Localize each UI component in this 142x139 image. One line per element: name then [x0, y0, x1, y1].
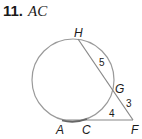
- label-a: A: [55, 123, 64, 137]
- secant-hf: [78, 39, 133, 120]
- label-c: C: [82, 123, 91, 137]
- length-hg: 5: [99, 57, 105, 68]
- label-f: F: [131, 123, 139, 137]
- label-g: G: [115, 82, 124, 96]
- length-gf: 3: [126, 98, 132, 109]
- label-h: H: [74, 26, 83, 40]
- length-cf: 4: [109, 108, 115, 119]
- geometry-diagram: H G F A C 5 3 4: [0, 0, 142, 139]
- circle: [32, 39, 114, 121]
